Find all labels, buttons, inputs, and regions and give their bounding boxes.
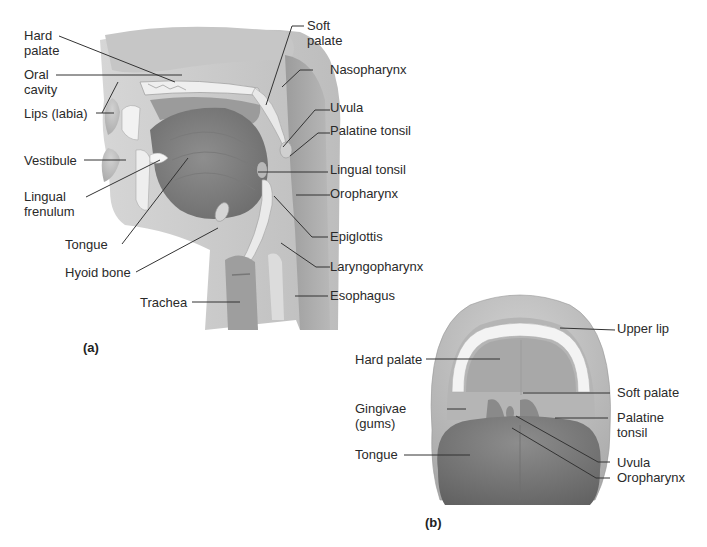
panel-tag-a: (a) xyxy=(83,340,99,355)
label-uvula-a: Uvula xyxy=(330,100,363,115)
label-oropharynx-a: Oropharynx xyxy=(330,186,398,201)
label-tongue-a: Tongue xyxy=(65,237,108,252)
label-oropharynx-b: Oropharynx xyxy=(617,470,685,485)
label-hard-palate-a: Hard palate xyxy=(24,28,59,58)
label-epiglottis: Epiglottis xyxy=(330,229,383,244)
label-trachea: Trachea xyxy=(140,295,187,310)
label-hyoid-bone: Hyoid bone xyxy=(65,265,131,280)
label-lingual-tonsil: Lingual tonsil xyxy=(330,162,406,177)
panel-tag-b: (b) xyxy=(425,515,442,530)
label-vestibule: Vestibule xyxy=(24,153,77,168)
label-lips: Lips (labia) xyxy=(24,106,88,121)
label-hard-palate-b: Hard palate xyxy=(355,352,422,367)
label-nasopharynx: Nasopharynx xyxy=(330,62,407,77)
label-palatine-tonsil-a: Palatine tonsil xyxy=(330,123,411,138)
label-laryngopharynx: Laryngopharynx xyxy=(330,259,423,274)
label-gingivae: Gingivae (gums) xyxy=(355,401,406,431)
label-soft-palate-a: Soft palate xyxy=(307,18,342,48)
label-lingual-frenulum: Lingual frenulum xyxy=(24,189,75,219)
label-esophagus: Esophagus xyxy=(330,288,395,303)
label-soft-palate-b: Soft palate xyxy=(617,385,679,400)
label-tongue-b: Tongue xyxy=(355,447,398,462)
anatomy-figure: Hard palate Oral cavity Lips (labia) Ves… xyxy=(0,0,707,547)
label-uvula-b: Uvula xyxy=(617,455,650,470)
label-upper-lip: Upper lip xyxy=(617,321,669,336)
label-oral-cavity: Oral cavity xyxy=(24,67,57,97)
label-palatine-tonsil-b: Palatine tonsil xyxy=(617,410,664,440)
